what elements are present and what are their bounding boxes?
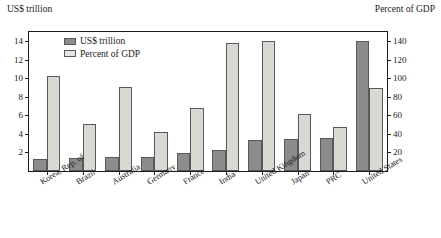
axis-tick: [387, 78, 391, 79]
axis-tick: [25, 60, 29, 61]
bar-usd-trillion: [33, 159, 47, 171]
axis-tick-label: 120: [393, 55, 407, 64]
axis-tick-label: 2: [19, 148, 24, 157]
axis-tick: [25, 41, 29, 42]
chart-figure: US$ trillion Percent of GDP 2468101214 2…: [0, 0, 441, 238]
bar-group: [248, 32, 275, 171]
axis-tick: [387, 115, 391, 116]
axis-tick-label: 4: [19, 129, 24, 138]
bar-group: [177, 32, 204, 171]
legend-item: Percent of GDP: [64, 48, 140, 61]
bar-percent-of-gdp: [369, 88, 383, 171]
axis-tick: [387, 41, 391, 42]
axis-tick-label: 12: [14, 55, 23, 64]
left-axis-title: US$ trillion: [7, 4, 52, 14]
legend-swatch-dark: [64, 38, 76, 45]
bar-usd-trillion: [177, 153, 191, 171]
axis-tick: [25, 97, 29, 98]
axis-tick-label: 40: [393, 129, 402, 138]
bar-group: [212, 32, 239, 171]
axis-tick: [25, 152, 29, 153]
axis-tick-label: 14: [14, 37, 23, 46]
bar-group: [320, 32, 347, 171]
legend-label: US$ trillion: [80, 35, 125, 48]
axis-tick-label: 140: [393, 37, 407, 46]
legend-label: Percent of GDP: [80, 48, 140, 61]
axis-tick: [387, 152, 391, 153]
axis-tick-label: 80: [393, 92, 402, 101]
bar-usd-trillion: [141, 157, 155, 171]
category-label: PRC: [324, 169, 343, 186]
axis-tick: [387, 60, 391, 61]
legend-item: US$ trillion: [64, 35, 140, 48]
bar-group: [33, 32, 60, 171]
axis-tick-label: 60: [393, 111, 402, 120]
axis-tick-label: 6: [19, 111, 24, 120]
bar-percent-of-gdp: [333, 127, 347, 171]
right-axis-title: Percent of GDP: [375, 4, 435, 14]
bar-usd-trillion: [320, 138, 334, 171]
axis-tick: [25, 115, 29, 116]
bar-percent-of-gdp: [262, 41, 276, 171]
bar-usd-trillion: [356, 41, 370, 171]
axis-tick: [387, 134, 391, 135]
axis-tick: [25, 78, 29, 79]
axis-tick: [25, 134, 29, 135]
bar-percent-of-gdp: [47, 76, 61, 171]
bar-group: [141, 32, 168, 171]
bar-group: [356, 32, 383, 171]
bar-percent-of-gdp: [119, 87, 133, 171]
bar-usd-trillion: [212, 150, 226, 171]
chart-legend: US$ trillionPercent of GDP: [64, 35, 140, 60]
bar-percent-of-gdp: [298, 114, 312, 171]
bar-usd-trillion: [105, 157, 119, 171]
axis-tick-label: 10: [14, 74, 23, 83]
bar-percent-of-gdp: [226, 43, 240, 171]
axis-tick-label: 8: [19, 92, 24, 101]
legend-swatch-light: [64, 50, 76, 57]
axis-tick-label: 100: [393, 74, 407, 83]
bar-usd-trillion: [248, 140, 262, 171]
axis-tick: [387, 97, 391, 98]
bar-percent-of-gdp: [190, 108, 204, 171]
bar-percent-of-gdp: [83, 124, 97, 171]
